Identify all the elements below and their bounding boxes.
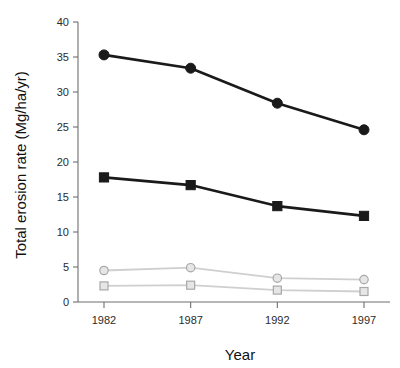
y-tick-label-20: 20 <box>57 156 69 168</box>
x-axis: 1982198719921997 <box>78 302 390 326</box>
x-tick-label-1992: 1992 <box>265 314 289 326</box>
data-point-dark-circles-1992 <box>272 98 282 108</box>
x-tick-group: 1982198719921997 <box>92 302 376 326</box>
y-tick-label-40: 40 <box>57 16 69 28</box>
series-dark-squares <box>99 173 368 221</box>
data-point-light-squares-1987 <box>187 281 195 289</box>
data-point-light-circles-1997 <box>360 275 368 283</box>
y-tick-label-25: 25 <box>57 121 69 133</box>
data-point-dark-circles-1987 <box>186 63 196 73</box>
y-tick-label-10: 10 <box>57 226 69 238</box>
series-light-squares <box>100 281 368 295</box>
x-axis-title: Year <box>225 346 255 363</box>
series-line-light-squares <box>104 285 364 291</box>
y-tick-label-30: 30 <box>57 86 69 98</box>
x-tick-label-1987: 1987 <box>178 314 202 326</box>
data-point-dark-squares-1982 <box>99 173 108 182</box>
data-point-light-circles-1982 <box>100 266 108 274</box>
data-point-dark-circles-1982 <box>99 50 109 60</box>
data-point-light-squares-1982 <box>100 282 108 290</box>
x-tick-label-1982: 1982 <box>92 314 116 326</box>
erosion-rate-line-chart: 0510152025303540 1982198719921997 Year T… <box>0 0 400 368</box>
series-light-circles <box>100 264 368 284</box>
data-point-light-squares-1997 <box>360 288 368 296</box>
y-axis-title: Total erosion rate (Mg/ha/yr) <box>12 71 29 259</box>
data-point-light-circles-1992 <box>273 274 281 282</box>
data-point-dark-circles-1997 <box>359 125 369 135</box>
data-point-light-squares-1992 <box>273 286 281 294</box>
data-point-dark-squares-1997 <box>359 211 368 220</box>
x-tick-label-1997: 1997 <box>352 314 376 326</box>
series-line-dark-squares <box>104 177 364 216</box>
y-tick-label-5: 5 <box>63 261 69 273</box>
data-point-dark-squares-1987 <box>186 181 195 190</box>
y-axis: 0510152025303540 <box>57 16 78 308</box>
y-tick-label-15: 15 <box>57 191 69 203</box>
chart-container: 0510152025303540 1982198719921997 Year T… <box>0 0 400 368</box>
series-line-dark-circles <box>104 55 364 130</box>
series-layer <box>99 50 369 296</box>
series-dark-circles <box>99 50 369 135</box>
y-tick-group: 0510152025303540 <box>57 16 78 308</box>
series-line-light-circles <box>104 268 364 280</box>
data-point-dark-squares-1992 <box>273 202 282 211</box>
y-tick-label-35: 35 <box>57 51 69 63</box>
data-point-light-circles-1987 <box>186 264 194 272</box>
y-tick-label-0: 0 <box>63 296 69 308</box>
